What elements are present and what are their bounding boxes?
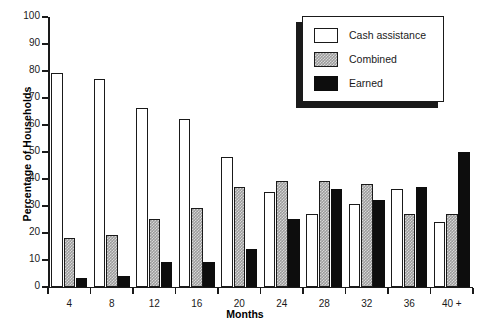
legend-item-earned: Earned [314, 75, 383, 91]
legend-swatch-earned [314, 76, 338, 91]
x-tick-label-4: 20 [234, 298, 245, 309]
bar-cash-8 [94, 79, 106, 287]
bar-earned-36 [416, 187, 428, 287]
y-tick-70 [42, 97, 48, 99]
x-tick-end [472, 288, 474, 294]
x-tick-label-8: 36 [404, 298, 415, 309]
y-axis-line [48, 17, 50, 288]
bar-earned-4 [76, 278, 88, 286]
x-tick-1 [90, 288, 92, 294]
bar-cash-12 [136, 108, 148, 286]
y-tick-60 [42, 124, 48, 126]
bar-cash-40 [434, 222, 446, 287]
y-tick-label-70: 70 [8, 91, 40, 102]
legend-item-combined: Combined [314, 51, 397, 67]
y-tick-80 [42, 70, 48, 72]
bar-cash-20 [221, 157, 233, 287]
y-tick-100 [42, 16, 48, 18]
bar-combined-32 [361, 184, 373, 287]
y-tick-label-20: 20 [8, 226, 40, 237]
legend-label-cash-assistance: Cash assistance [349, 29, 426, 41]
legend-label-earned: Earned [349, 77, 383, 89]
x-tick-label-3: 16 [191, 298, 202, 309]
y-tick-40 [42, 178, 48, 180]
bar-cash-32 [349, 204, 361, 286]
bar-cash-16 [179, 119, 191, 286]
bar-combined-4 [64, 238, 76, 287]
x-tick-label-9: 40 + [442, 298, 462, 309]
bar-earned-32 [373, 200, 385, 286]
y-tick-label-80: 80 [8, 64, 40, 75]
x-tick-9 [430, 288, 432, 294]
x-tick-label-6: 28 [319, 298, 330, 309]
y-tick-10 [42, 259, 48, 261]
y-tick-label-90: 90 [8, 37, 40, 48]
y-tick-label-30: 30 [8, 199, 40, 210]
bar-chart-figure: Percentage of Households Months 01020304… [0, 0, 489, 331]
y-tick-label-0: 0 [8, 280, 40, 291]
bar-combined-28 [319, 181, 331, 286]
x-tick-0 [47, 288, 49, 294]
y-tick-50 [42, 151, 48, 153]
y-tick-30 [42, 205, 48, 207]
y-tick-90 [42, 43, 48, 45]
legend-swatch-combined [314, 52, 338, 67]
x-tick-3 [175, 288, 177, 294]
x-tick-label-7: 32 [361, 298, 372, 309]
x-axis-title: Months [40, 308, 450, 320]
x-tick-label-2: 12 [149, 298, 160, 309]
x-tick-label-0: 4 [66, 298, 72, 309]
x-tick-label-5: 24 [276, 298, 287, 309]
bar-combined-8 [106, 235, 118, 286]
y-tick-label-60: 60 [8, 118, 40, 129]
bar-combined-20 [234, 187, 246, 287]
legend-label-combined: Combined [349, 53, 397, 65]
bar-cash-24 [264, 192, 276, 287]
bar-combined-12 [149, 219, 161, 287]
x-tick-4 [217, 288, 219, 294]
bar-combined-36 [404, 214, 416, 287]
bar-cash-36 [391, 189, 403, 286]
legend-swatch-cash-assistance [314, 28, 338, 43]
x-tick-8 [387, 288, 389, 294]
bar-earned-28 [331, 189, 343, 286]
legend-item-cash-assistance: Cash assistance [314, 27, 426, 43]
bar-earned-8 [118, 276, 130, 287]
y-tick-label-50: 50 [8, 145, 40, 156]
y-tick-label-100: 100 [8, 10, 40, 21]
x-tick-7 [345, 288, 347, 294]
chart-legend: Cash assistance Combined Earned [302, 16, 444, 102]
x-tick-2 [132, 288, 134, 294]
bar-combined-40 [446, 214, 458, 287]
bar-cash-4 [51, 73, 63, 286]
bar-earned-16 [203, 262, 215, 286]
x-tick-label-1: 8 [109, 298, 115, 309]
x-tick-5 [260, 288, 262, 294]
bar-combined-16 [191, 208, 203, 286]
y-tick-label-10: 10 [8, 253, 40, 264]
bar-earned-40 [458, 152, 470, 287]
bar-combined-24 [276, 181, 288, 286]
y-tick-label-40: 40 [8, 172, 40, 183]
bar-earned-12 [161, 262, 173, 286]
bar-earned-20 [246, 249, 258, 287]
y-tick-20 [42, 232, 48, 234]
bar-earned-24 [288, 219, 300, 287]
bar-cash-28 [306, 214, 318, 287]
x-tick-6 [302, 288, 304, 294]
